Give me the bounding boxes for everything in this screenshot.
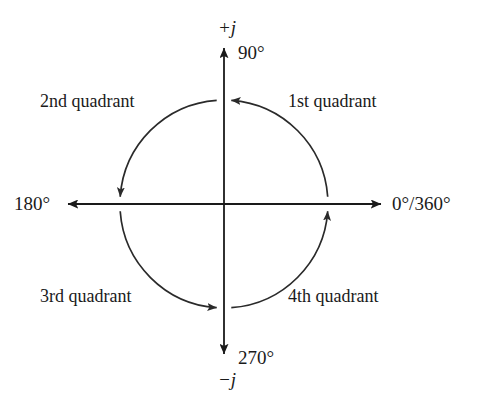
arc-quadrant-2 xyxy=(120,100,217,196)
angle-label-270: 270° xyxy=(238,348,274,367)
quadrant-label-3: 3rd quadrant xyxy=(40,287,131,305)
angle-label-180: 180° xyxy=(14,194,50,213)
quadrant-label-4: 4th quadrant xyxy=(288,287,378,305)
angle-label-90: 90° xyxy=(238,43,265,62)
quadrant-label-1: 1st quadrant xyxy=(288,92,376,110)
positive-imaginary-axis-label: +j xyxy=(218,18,236,37)
arc-quadrant-3 xyxy=(120,211,217,307)
angle-label-0-360: 0°/360° xyxy=(392,194,450,213)
phasor-quadrant-diagram: +j 90° −j 270° 180° 0°/360° 2nd quadrant… xyxy=(0,0,481,410)
arc-quadrant-1 xyxy=(231,100,327,196)
negative-imaginary-axis-label: −j xyxy=(218,370,236,389)
quadrant-label-2: 2nd quadrant xyxy=(40,92,134,110)
